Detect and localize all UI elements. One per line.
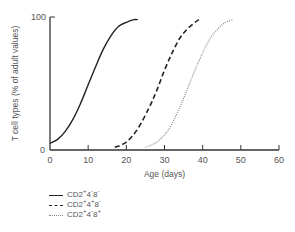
y-tick-label-0: 0 [40, 145, 45, 155]
series-dotted-line [145, 20, 233, 148]
x-tick-label: 0 [47, 155, 52, 165]
x-tick-label: 50 [236, 155, 246, 165]
legend-item: CD2+4+8- [49, 200, 101, 210]
chart-svg: 01020304050601000Age (days)T cell types … [0, 0, 295, 232]
x-axis-label: Age (days) [144, 169, 185, 179]
legend-item: CD2+4-8+ [49, 210, 101, 220]
y-axis-label: T cell types (% of adult values) [10, 26, 20, 142]
x-tick-label: 60 [274, 155, 284, 165]
legend-swatch-dashed-icon [49, 205, 63, 206]
x-tick-label: 10 [83, 155, 93, 165]
series-dashed-line [115, 20, 199, 148]
x-tick-label: 20 [121, 155, 131, 165]
axes: 01020304050601000Age (days)T cell types … [10, 12, 284, 179]
curves [50, 19, 233, 147]
legend-label: CD2+4-8+ [67, 210, 101, 220]
legend-swatch-dotted-icon [49, 215, 63, 216]
legend-swatch-solid-icon [49, 195, 63, 196]
series-solid-line [50, 19, 138, 143]
x-tick-label: 30 [159, 155, 169, 165]
y-tick-label-100: 100 [31, 12, 46, 22]
legend: CD2+4-8-CD2+4+8-CD2+4-8+ [49, 190, 101, 220]
x-tick-label: 40 [198, 155, 208, 165]
